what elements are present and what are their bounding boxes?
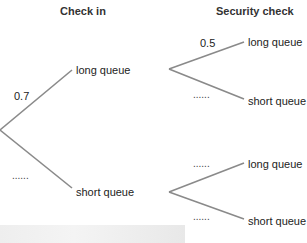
- outcome-checkin-long: long queue: [76, 64, 130, 76]
- outcome-long-short: short queue: [248, 95, 306, 107]
- outcome-short-short: short queue: [248, 215, 306, 227]
- outcome-short-long: long queue: [248, 158, 302, 170]
- outcome-checkin-short: short queue: [76, 186, 134, 198]
- prob-checkin-short[interactable]: ......: [12, 170, 29, 181]
- prob-checkin-long: 0.7: [14, 90, 29, 102]
- outcome-long-long: long queue: [248, 36, 302, 48]
- branch-checkin-long: [0, 70, 72, 130]
- prob-short-short[interactable]: ......: [193, 211, 210, 222]
- scan-artifact-strip: [0, 225, 185, 243]
- branch-checkin-short: [0, 130, 72, 188]
- prob-short-long[interactable]: ......: [193, 158, 210, 169]
- prob-long-short[interactable]: ......: [193, 89, 210, 100]
- prob-long-long: 0.5: [200, 37, 215, 49]
